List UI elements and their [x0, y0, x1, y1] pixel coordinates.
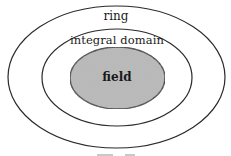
truncated-caption: [0, 153, 231, 156]
integral-domain-label: integral domain: [70, 35, 164, 47]
ring-label: ring: [104, 10, 129, 22]
field-label: field: [102, 71, 131, 83]
caption-fragment: [97, 154, 113, 156]
caption-fragment: [125, 154, 135, 156]
